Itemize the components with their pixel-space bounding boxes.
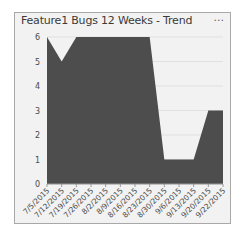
y-tick-label: 4 — [35, 82, 40, 91]
area-chart: 0123456 7/5/20157/12/20157/19/20157/26/2… — [0, 0, 244, 236]
y-tick-label: 5 — [35, 58, 40, 67]
y-axis: 0123456 — [35, 33, 40, 189]
y-tick-label: 1 — [35, 156, 40, 165]
y-tick-label: 0 — [35, 180, 40, 189]
y-tick-label: 3 — [35, 107, 40, 116]
y-tick-label: 2 — [35, 131, 40, 140]
y-tick-label: 6 — [35, 33, 40, 42]
x-axis: 7/5/20157/12/20157/19/20157/26/20158/2/2… — [21, 184, 227, 220]
